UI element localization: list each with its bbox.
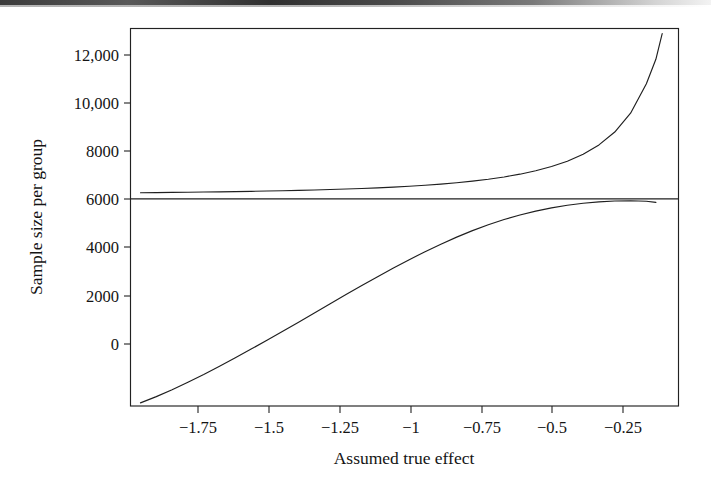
plot-frame [131, 29, 679, 407]
y-tick-label-6000: 6000 [86, 190, 119, 209]
y-tick-label-4000: 4000 [86, 238, 119, 257]
x-tick-label-neg0-75: −0.75 [463, 418, 501, 437]
x-tick-label-neg0-5: −0.5 [537, 418, 567, 437]
x-axis-ticks [198, 406, 623, 413]
y-axis-tick-labels: 12,000 10,000 8000 6000 4000 2000 0 [74, 46, 119, 354]
y-tick-label-10000: 10,000 [74, 94, 119, 113]
series-line-required-sample-size [140, 34, 662, 193]
y-tick-label-8000: 8000 [86, 142, 119, 161]
chart-svg: 12,000 10,000 8000 6000 4000 2000 0 −1.7… [0, 0, 711, 488]
y-axis-title: Sample size per group [26, 139, 46, 295]
y-tick-label-0: 0 [111, 335, 119, 354]
figure-canvas: 12,000 10,000 8000 6000 4000 2000 0 −1.7… [0, 0, 711, 488]
y-tick-label-2000: 2000 [86, 287, 119, 306]
x-tick-label-neg1-75: −1.75 [179, 418, 217, 437]
y-tick-label-12000: 12,000 [74, 46, 119, 65]
x-axis-tick-labels: −1.75 −1.5 −1.25 −1 −0.75 −0.5 −0.25 [179, 418, 642, 437]
series-line-negative-branch [140, 201, 655, 403]
x-tick-label-neg0-25: −0.25 [604, 418, 642, 437]
x-tick-label-neg1-5: −1.5 [254, 418, 284, 437]
x-tick-label-neg1-25: −1.25 [321, 418, 359, 437]
x-tick-label-neg1: −1 [402, 418, 420, 437]
x-axis-title: Assumed true effect [334, 448, 475, 468]
